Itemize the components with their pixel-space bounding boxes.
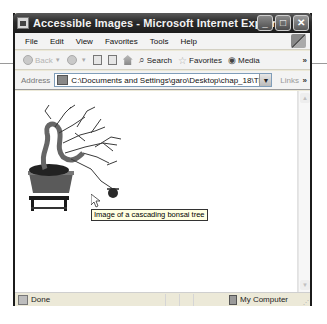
computer-icon xyxy=(229,295,237,305)
search-button[interactable]: ⌕ Search xyxy=(139,54,172,66)
address-value[interactable]: C:\Documents and Settings\garo\Desktop\c… xyxy=(71,76,261,85)
media-icon: ◉ xyxy=(228,55,236,65)
status-cell-3 xyxy=(193,294,207,306)
search-icon: ⌕ xyxy=(139,54,145,66)
menu-edit[interactable]: Edit xyxy=(50,37,64,46)
scroll-down-button[interactable]: ▼ xyxy=(300,280,310,290)
forward-dropdown-icon[interactable]: ▼ xyxy=(81,57,87,63)
windows-logo-icon xyxy=(291,34,306,48)
browser-window: Accessible Images - Microsoft Internet E… xyxy=(13,13,312,306)
stop-button[interactable] xyxy=(93,55,102,65)
address-label: Address xyxy=(21,76,50,85)
refresh-button[interactable] xyxy=(108,55,117,65)
stop-icon xyxy=(93,55,102,65)
menu-favorites[interactable]: Favorites xyxy=(105,37,138,46)
menu-tools[interactable]: Tools xyxy=(150,37,169,46)
menu-file[interactable]: File xyxy=(25,37,38,46)
page-icon xyxy=(57,75,68,85)
refresh-icon xyxy=(108,55,117,65)
favorites-label: Favorites xyxy=(189,56,222,65)
menu-bar: File Edit View Favorites Tools Help xyxy=(15,33,310,50)
maximize-button[interactable]: □ xyxy=(275,15,291,31)
page-done-icon xyxy=(18,295,28,305)
ie-window-icon[interactable] xyxy=(17,17,29,29)
forward-button[interactable]: ▼ xyxy=(67,55,87,65)
status-bar: Done My Computer ⋰ xyxy=(15,292,310,306)
toolbar-overflow-chevron-icon[interactable]: » xyxy=(303,56,307,65)
status-cell-1 xyxy=(165,294,179,306)
address-input[interactable]: C:\Documents and Settings\garo\Desktop\c… xyxy=(54,73,272,87)
alt-text-tooltip: Image of a cascading bonsai tree xyxy=(91,209,208,221)
status-section: Done xyxy=(15,295,165,305)
vertical-scrollbar[interactable]: ▲ ▼ xyxy=(298,91,310,292)
page-content: Image of a cascading bonsai tree xyxy=(15,91,298,292)
status-cell-2 xyxy=(179,294,193,306)
media-button[interactable]: ◉ Media xyxy=(228,55,260,65)
back-button[interactable]: Back ▼ xyxy=(23,55,61,65)
mouse-cursor-icon xyxy=(91,194,100,208)
status-text: Done xyxy=(31,295,50,304)
window-controls: _ □ ✕ xyxy=(257,15,309,31)
back-arrow-icon xyxy=(23,55,33,65)
standard-toolbar: Back ▼ ▼ ⌕ Search ☆ Favorites xyxy=(15,51,310,70)
back-dropdown-icon[interactable]: ▼ xyxy=(55,57,61,63)
links-label[interactable]: Links xyxy=(280,76,299,85)
menu-view[interactable]: View xyxy=(76,37,93,46)
home-icon xyxy=(123,55,133,65)
zone-text: My Computer xyxy=(240,295,288,304)
close-button[interactable]: ✕ xyxy=(293,15,309,31)
favorites-button[interactable]: ☆ Favorites xyxy=(178,55,222,66)
title-bar[interactable]: Accessible Images - Microsoft Internet E… xyxy=(13,13,312,33)
window-title: Accessible Images - Microsoft Internet E… xyxy=(33,17,287,29)
resize-grip-icon[interactable]: ⋰ xyxy=(303,298,309,305)
star-icon: ☆ xyxy=(178,55,187,66)
home-button[interactable] xyxy=(123,55,133,65)
menu-help[interactable]: Help xyxy=(180,37,196,46)
bonsai-image[interactable] xyxy=(25,103,137,213)
scroll-up-button[interactable]: ▲ xyxy=(300,93,310,103)
screenshot-stage: Accessible Images - Microsoft Internet E… xyxy=(0,0,327,324)
address-dropdown-icon[interactable]: ▼ xyxy=(259,74,271,86)
media-label: Media xyxy=(238,56,260,65)
search-label: Search xyxy=(147,56,172,65)
links-overflow-chevron-icon[interactable]: » xyxy=(303,76,307,85)
forward-arrow-icon xyxy=(67,55,77,65)
back-label: Back xyxy=(35,56,53,65)
address-bar: Address C:\Documents and Settings\garo\D… xyxy=(15,71,310,90)
minimize-button[interactable]: _ xyxy=(257,15,273,31)
security-zone: My Computer xyxy=(229,295,288,305)
